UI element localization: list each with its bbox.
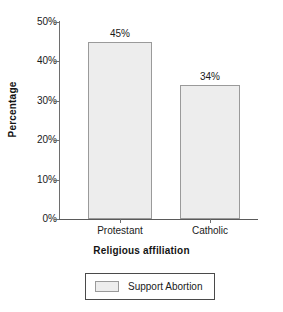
y-axis-tick-mark	[54, 140, 59, 141]
y-axis-tick-label: 20%	[0, 133, 57, 147]
y-axis-tick-mark	[54, 101, 59, 102]
legend-swatch-support-abortion	[95, 281, 119, 292]
y-axis-line	[59, 21, 60, 220]
y-axis-tick-mark	[54, 219, 59, 220]
y-axis-tick-mark	[54, 22, 59, 23]
y-axis-tick-label: 40%	[0, 54, 57, 68]
bar-catholic	[180, 85, 240, 219]
bar-protestant	[88, 42, 152, 219]
y-axis-tick-mark	[54, 180, 59, 181]
y-axis-tick-label: 10%	[0, 173, 57, 187]
x-axis-tick-mark	[120, 219, 121, 223]
x-axis-category-label: Catholic	[165, 224, 255, 238]
x-axis-title: Religious affiliation	[0, 245, 283, 256]
y-axis-tick-label: 50%	[0, 15, 57, 29]
bar-value-label: 45%	[90, 27, 150, 40]
legend-label-support-abortion: Support Abortion	[128, 281, 203, 292]
x-axis-category-label: Protestant	[75, 224, 165, 238]
x-axis-line	[59, 219, 258, 220]
bar-chart: Percentage 50%40%30%20%10%0% 45%Protesta…	[0, 0, 283, 312]
y-axis-tick-label: 30%	[0, 94, 57, 108]
bar-value-label: 34%	[180, 70, 240, 83]
x-axis-tick-mark	[210, 219, 211, 223]
y-axis-tick-mark	[54, 61, 59, 62]
y-axis-title-text: Percentage	[8, 82, 19, 138]
chart-legend: Support Abortion	[85, 273, 215, 300]
y-axis-tick-label: 0%	[0, 212, 57, 226]
